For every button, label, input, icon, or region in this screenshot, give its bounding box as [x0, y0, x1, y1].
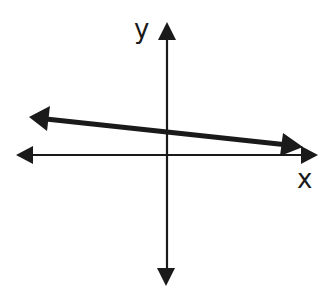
- y-axis-label: y: [134, 16, 149, 42]
- x-axis-left-arrow-icon: [16, 146, 33, 164]
- y-axis-top-arrow-icon: [158, 22, 176, 40]
- plotted-line-left-arrow-icon: [29, 106, 50, 131]
- y-axis-bottom-arrow-icon: [157, 268, 175, 286]
- coordinate-plane: y x: [0, 0, 332, 288]
- x-axis-label: x: [297, 166, 312, 192]
- coordinate-plane-graphic: [0, 0, 332, 288]
- x-axis-right-arrow-icon: [301, 146, 318, 164]
- plotted-line-right-arrow-icon: [280, 133, 303, 156]
